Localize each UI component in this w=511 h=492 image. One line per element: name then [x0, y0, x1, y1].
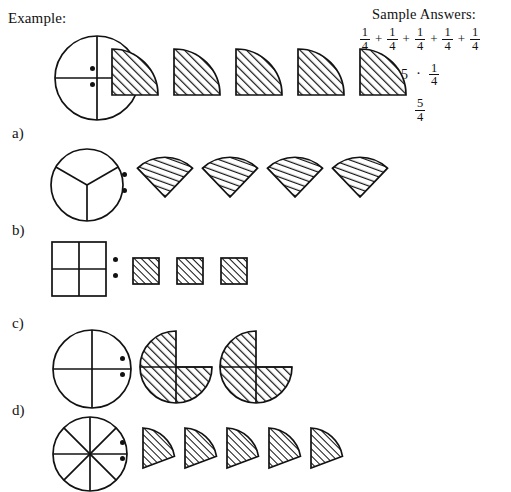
- whole-circle-eighths: [50, 414, 130, 492]
- fraction-denominator: 4: [429, 74, 439, 88]
- piece-group-d: [140, 425, 355, 473]
- plus-operator: +: [403, 32, 410, 46]
- third-sector-piece: [203, 157, 258, 197]
- plus-operator: +: [375, 32, 382, 46]
- third-sector-piece: [138, 157, 193, 197]
- separator-colon-a: [122, 172, 127, 193]
- plus-operator: +: [430, 32, 437, 46]
- fraction-denominator: 4: [387, 39, 397, 53]
- third-sector-piece: [268, 157, 323, 197]
- fraction-one-quarter: 1 4: [387, 26, 397, 53]
- answer-improper-fraction: 5 4: [330, 97, 510, 124]
- fraction-one-quarter: 1 4: [429, 62, 439, 89]
- whole-square-quadrants: [50, 240, 108, 298]
- fraction-one-quarter: 1 4: [415, 26, 425, 53]
- sample-answers-title: Sample Answers:: [372, 6, 476, 23]
- piece-group-example: [110, 47, 370, 99]
- square-piece: [133, 258, 159, 284]
- three-quarter-circle-piece: [220, 331, 292, 403]
- separator-colon-d: [120, 440, 125, 461]
- plus-operator: +: [458, 32, 465, 46]
- eighth-wedge-piece: [227, 428, 259, 468]
- row-label-a: a): [12, 125, 24, 142]
- square-piece: [221, 258, 247, 284]
- three-quarter-circle-piece: [140, 331, 212, 403]
- eighth-wedge-piece: [311, 428, 343, 468]
- eighth-wedge-piece: [269, 428, 301, 468]
- fraction-denominator: 4: [415, 110, 425, 124]
- fraction-one-quarter: 1 4: [470, 26, 480, 53]
- square-piece: [177, 258, 203, 284]
- fraction-numerator: 1: [442, 26, 452, 39]
- row-label-d: d): [12, 402, 25, 419]
- fraction-numerator: 1: [360, 26, 370, 39]
- quarter-wedge-piece: [236, 49, 282, 95]
- fraction-one-quarter: 1 4: [442, 26, 452, 53]
- fraction-denominator: 4: [415, 39, 425, 53]
- fraction-denominator: 4: [470, 39, 480, 53]
- fraction-numerator: 1: [470, 26, 480, 39]
- worksheet-page: Example: Sample Answers: 1 4 + 1 4 + 1 4…: [0, 0, 511, 492]
- third-sector-piece: [333, 157, 388, 197]
- fraction-numerator: 1: [387, 26, 397, 39]
- separator-colon-c: [120, 356, 125, 377]
- quarter-wedge-piece: [298, 49, 344, 95]
- eighth-wedge-piece: [185, 428, 217, 468]
- fraction-five-quarters: 5 4: [415, 97, 425, 124]
- whole-circle-thirds: [48, 146, 126, 224]
- quarter-wedge-piece: [112, 49, 158, 95]
- row-label-b: b): [12, 222, 25, 239]
- fraction-numerator: 1: [415, 26, 425, 39]
- piece-group-b: [131, 256, 261, 288]
- row-label-c: c): [12, 315, 24, 332]
- example-label: Example:: [8, 10, 66, 27]
- piece-group-a: [134, 153, 404, 201]
- separator-colon-b: [113, 257, 118, 278]
- fraction-numerator: 1: [429, 62, 439, 75]
- separator-colon-example: [90, 66, 95, 87]
- quarter-wedge-piece: [174, 49, 220, 95]
- multiplication-dot: ·: [415, 66, 422, 84]
- fraction-denominator: 4: [442, 39, 452, 53]
- fraction-numerator: 5: [415, 97, 425, 110]
- eighth-wedge-piece: [143, 428, 175, 468]
- piece-group-c: [138, 329, 298, 407]
